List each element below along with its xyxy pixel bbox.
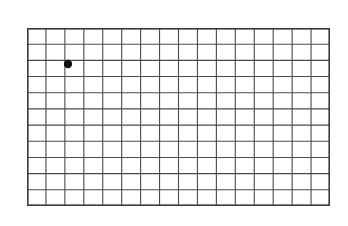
grid-surface[interactable] bbox=[27, 28, 330, 206]
grid-svg bbox=[27, 28, 330, 206]
point-marker[interactable] bbox=[64, 60, 72, 68]
coordinate-grid-figure bbox=[0, 0, 348, 226]
